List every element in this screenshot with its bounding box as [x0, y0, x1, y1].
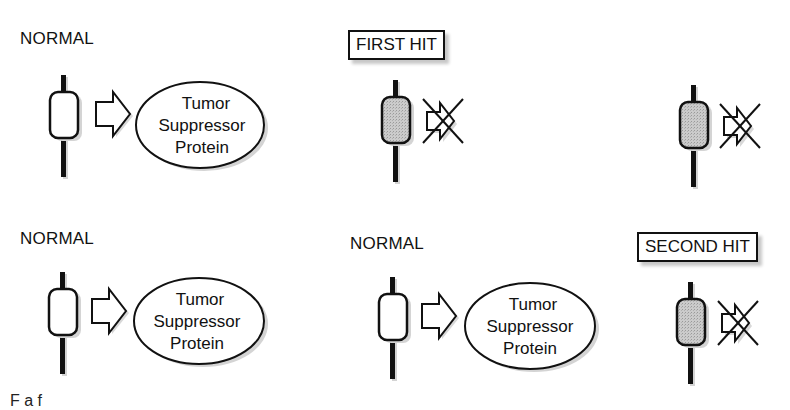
panel-bottom-right — [677, 282, 758, 386]
gene-normal-icon — [50, 75, 82, 179]
protein-line-2: Suppressor — [154, 312, 241, 331]
arrow-right-icon — [96, 92, 133, 137]
gene-mutated-icon — [677, 282, 709, 386]
protein-line-1: Tumor — [182, 94, 231, 113]
arrow-right-icon — [422, 294, 459, 339]
blocked-arrow-icon — [423, 99, 463, 143]
protein-line-2: Suppressor — [159, 116, 246, 135]
protein-line-3: Protein — [175, 138, 229, 157]
protein-line-2: Suppressor — [487, 317, 574, 336]
tumor-suppressor-protein-ellipse: Tumor Suppressor Protein — [136, 82, 268, 171]
gene-mutated-icon — [680, 85, 712, 189]
panel-top-right — [680, 85, 760, 189]
panel-bottom-middle: Tumor Suppressor Protein — [379, 277, 599, 381]
gene-mutated-icon — [382, 80, 414, 184]
panel-top-middle — [382, 80, 463, 184]
protein-line-3: Protein — [170, 334, 224, 353]
blocked-arrow-icon — [718, 301, 758, 345]
gene-normal-icon — [49, 272, 81, 376]
protein-line-3: Protein — [503, 339, 557, 358]
panel-bottom-left: Tumor Suppressor Protein — [49, 272, 268, 376]
blocked-arrow-icon — [720, 104, 760, 148]
protein-line-1: Tumor — [176, 290, 225, 309]
panel-top-left: Tumor Suppressor Protein — [50, 75, 268, 179]
tumor-suppressor-protein-ellipse: Tumor Suppressor Protein — [134, 278, 268, 367]
protein-line-1: Tumor — [509, 295, 558, 314]
gene-normal-icon — [379, 277, 411, 381]
arrow-right-icon — [92, 289, 129, 334]
tumor-suppressor-protein-ellipse: Tumor Suppressor Protein — [465, 283, 599, 372]
cropped-caption: F a f — [10, 392, 42, 410]
